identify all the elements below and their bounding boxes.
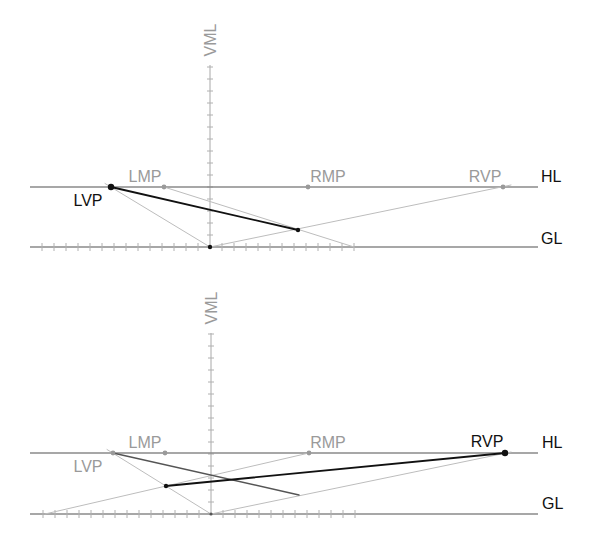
lmp-label: LMP — [129, 168, 162, 185]
hl-label: HL — [541, 168, 562, 185]
rvp-point — [502, 450, 508, 456]
lvp-label: LVP — [73, 458, 102, 475]
lmp-label: LMP — [129, 434, 162, 451]
lvp-point — [111, 451, 116, 456]
hl-label: HL — [542, 434, 563, 451]
gl-label: GL — [542, 495, 563, 512]
vml-label: VML — [203, 291, 220, 324]
vml-label: VML — [202, 23, 219, 56]
rmp-point — [306, 185, 311, 190]
origin-point — [209, 512, 212, 515]
rmp-point — [307, 451, 312, 456]
rmp-label: RMP — [310, 434, 346, 451]
lmp-point — [163, 451, 168, 456]
rvp-point — [501, 185, 506, 190]
rvp-label: RVP — [471, 433, 504, 450]
measured-point — [296, 228, 300, 232]
rmp-label: RMP — [310, 168, 346, 185]
gl-label: GL — [541, 230, 562, 247]
origin-point — [208, 245, 212, 249]
perspective-diagram: VML LMP RMP RVP LVP HL GL VML LMP RMP RV… — [0, 0, 596, 542]
measured-point — [164, 484, 168, 488]
rvp-label: RVP — [469, 168, 502, 185]
lvp-point — [108, 184, 114, 190]
lmp-point — [162, 185, 167, 190]
lvp-label: LVP — [73, 192, 102, 209]
